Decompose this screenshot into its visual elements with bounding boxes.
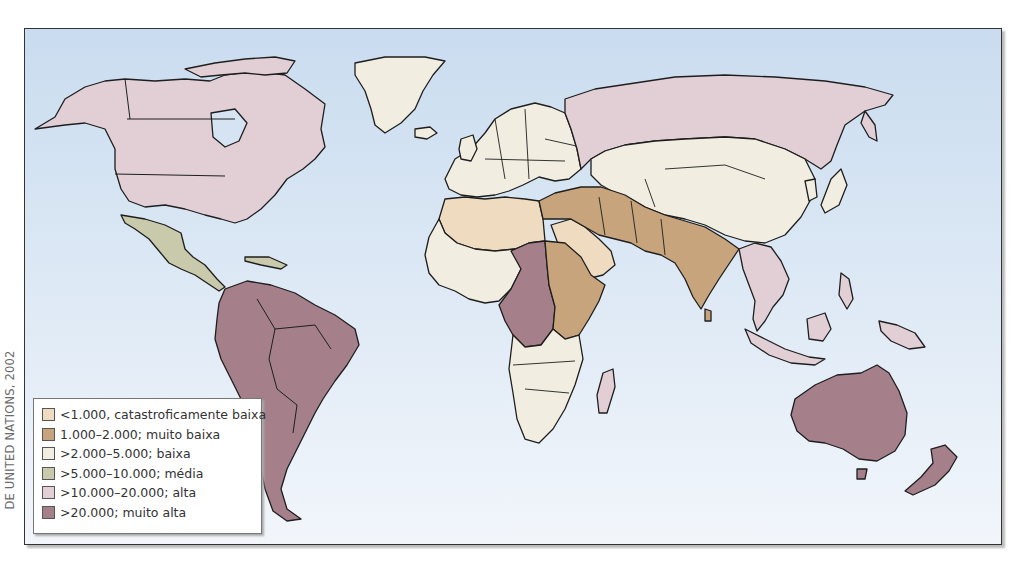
source-credit: DE UNITED NATIONS, 2002 xyxy=(2,300,18,560)
legend-label: >2.000–5.000; baixa xyxy=(60,446,191,461)
legend-swatch xyxy=(42,506,55,519)
legend-swatch xyxy=(42,447,55,460)
legend-swatch xyxy=(42,428,55,441)
legend-label: 1.000–2.000; muito baixa xyxy=(60,427,220,442)
legend-swatch xyxy=(42,467,55,480)
legend-item: >2.000–5.000; baixa xyxy=(42,444,261,464)
map-legend: <1.000, catastroficamente baixa 1.000–2.… xyxy=(33,398,262,534)
legend-swatch xyxy=(42,408,55,421)
region-tasmania xyxy=(857,469,867,479)
region-sri-lanka xyxy=(705,309,711,321)
legend-item: >10.000–20.000; alta xyxy=(42,483,261,503)
map-frame: <1.000, catastroficamente baixa 1.000–2.… xyxy=(24,28,1002,545)
legend-label: <1.000, catastroficamente baixa xyxy=(60,407,266,422)
legend-label: >10.000–20.000; alta xyxy=(60,485,196,500)
legend-item: 1.000–2.000; muito baixa xyxy=(42,425,261,445)
source-credit-text: DE UNITED NATIONS, 2002 xyxy=(3,350,17,509)
legend-swatch xyxy=(42,486,55,499)
legend-label: >20.000; muito alta xyxy=(60,505,186,520)
legend-item: >5.000–10.000; média xyxy=(42,464,261,484)
legend-item: >20.000; muito alta xyxy=(42,503,261,523)
legend-item: <1.000, catastroficamente baixa xyxy=(42,405,261,425)
legend-label: >5.000–10.000; média xyxy=(60,466,203,481)
